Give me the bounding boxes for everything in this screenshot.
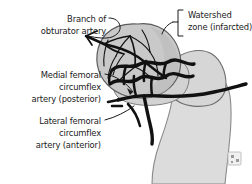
anatomy-figure: Branch of obturator artery Watershed zon… — [0, 0, 252, 184]
label-medial-line1: Medial femoral — [41, 70, 101, 80]
label-watershed-line2: zone (infarcted) — [188, 22, 252, 32]
label-medial-line3: artery (posterior) — [32, 94, 102, 104]
label-lateral-line2: circumflex — [59, 128, 101, 138]
label-obturator-line2: obturator artery — [41, 26, 106, 36]
label-watershed-line1: Watershed — [188, 10, 232, 20]
label-watershed-zone: Watershed zone (infarcted) — [162, 10, 252, 36]
label-lateral-line1: Lateral femoral — [39, 116, 101, 126]
label-lateral-femoral-circumflex: Lateral femoral circumflex artery (anter… — [36, 106, 134, 150]
label-lateral-line3: artery (anterior) — [36, 140, 101, 150]
broken-image-icon — [228, 152, 241, 165]
femoral-blood-supply-illustration: Branch of obturator artery Watershed zon… — [0, 0, 252, 184]
leader-line-lateral — [105, 106, 134, 120]
label-medial-line2: circumflex — [59, 82, 101, 92]
label-obturator-line1: Branch of — [67, 14, 107, 24]
bracket-watershed — [173, 10, 183, 36]
